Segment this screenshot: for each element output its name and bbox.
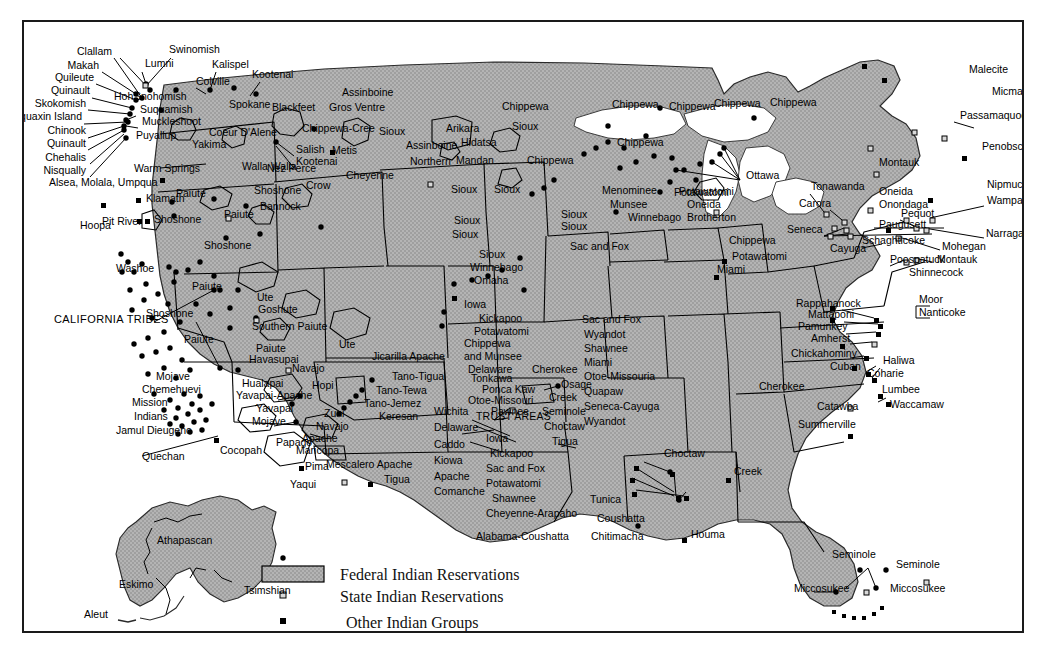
- map-label: Shinnecock: [909, 266, 964, 278]
- florida-keys-dots: [832, 606, 884, 620]
- map-label: Chinook: [47, 124, 86, 136]
- map-label: Pit River: [102, 215, 142, 227]
- map-label: Iowa: [486, 432, 508, 444]
- map-label: Tsimshian: [244, 584, 291, 596]
- map-label: Muckleshoot: [142, 115, 201, 127]
- map-label: Ottawa: [746, 169, 779, 181]
- map-label: Jicarilla Apache: [372, 350, 445, 362]
- map-label: Lumni: [145, 57, 174, 69]
- map-label: Goshute: [258, 303, 298, 315]
- map-label: Seneca: [787, 223, 823, 235]
- map-label: Kickapoo: [479, 312, 522, 324]
- map-label: Summerville: [798, 418, 856, 430]
- map-label: Seminole: [832, 548, 876, 560]
- map-label: Assinboine: [406, 139, 458, 151]
- map-label: Creek: [549, 391, 578, 403]
- map-label: Chippewa: [527, 154, 574, 166]
- map-label: Zuni: [324, 407, 344, 419]
- map-label: Assinboine: [342, 86, 394, 98]
- map-label: Mission: [132, 396, 168, 408]
- map-label: Chippewa: [714, 97, 761, 109]
- us-indian-reservations-map: Federal Indian Reservations State Indian…: [24, 22, 1022, 631]
- map-label: Tonawanda: [811, 180, 865, 192]
- map-label: Wyandot: [584, 415, 625, 427]
- map-label: Tigua: [552, 435, 578, 447]
- map-label: CALIFORNIA TRIBES: [54, 313, 169, 325]
- map-label: Nipmuc: [987, 178, 1022, 190]
- map-label: Snohomish: [134, 90, 187, 102]
- map-label: Sioux: [561, 208, 588, 220]
- map-label: Carora: [799, 197, 831, 209]
- map-label: Yavapai-Apache: [236, 389, 312, 401]
- map-label: Hidatsa: [461, 136, 497, 148]
- map-label: Washoe: [116, 262, 154, 274]
- map-label: Oneida: [879, 185, 913, 197]
- map-label: Catawba: [817, 400, 859, 412]
- map-label: Comanche: [434, 485, 485, 497]
- map-label: Jamul Dieugeno: [116, 424, 192, 436]
- map-label: Pamunkey: [798, 320, 848, 332]
- map-label: Choctaw: [544, 420, 585, 432]
- map-label: Miccosukee: [794, 582, 850, 594]
- map-label: Coharie: [867, 367, 904, 379]
- map-label: Quapaw: [584, 385, 624, 397]
- map-label: Athapascan: [157, 534, 213, 546]
- map-label: Colville: [196, 75, 230, 87]
- map-label: Kiowa: [434, 454, 463, 466]
- map-label: Seminole: [896, 558, 940, 570]
- map-label: Chippewa: [617, 136, 664, 148]
- map-label: Arikara: [446, 122, 479, 134]
- map-label: Waccamaw: [890, 398, 944, 410]
- map-label: Ute: [339, 338, 356, 350]
- map-label: Skokomish: [35, 97, 87, 109]
- map-label: Micmac: [992, 85, 1022, 97]
- map-legend: Federal Indian Reservations State Indian…: [262, 555, 520, 631]
- map-label: Chehalis: [45, 151, 86, 163]
- map-label: Sioux: [379, 125, 406, 137]
- map-label: Iowa: [464, 298, 486, 310]
- map-label: Winnebago: [628, 211, 681, 223]
- map-label: Swinomish: [169, 43, 220, 55]
- alaska-inset: [116, 496, 276, 622]
- map-label: Squaxin Island: [24, 110, 82, 122]
- map-label: Montauk: [879, 156, 920, 168]
- map-label: Menominee: [602, 184, 657, 196]
- map-label: Cheyenne: [346, 169, 394, 181]
- map-label: Cayuga: [830, 242, 866, 254]
- legend-federal-dot: [280, 555, 285, 560]
- map-label: Mojave: [252, 415, 286, 427]
- map-label: Mohegan: [942, 240, 986, 252]
- map-label: Makah: [67, 59, 99, 71]
- map-label: Northern: [410, 155, 451, 167]
- map-label: Quinault: [47, 137, 86, 149]
- map-label: Wyandot: [584, 328, 625, 340]
- map-label: Tano-Tigua: [392, 370, 444, 382]
- map-label: Nanticoke: [919, 306, 966, 318]
- map-label: Coeur D'Alene: [209, 126, 277, 138]
- map-frame: Federal Indian Reservations State Indian…: [22, 20, 1024, 633]
- map-label: Sioux: [454, 214, 481, 226]
- map-label: Narraganset: [986, 227, 1022, 239]
- map-label: Sioux: [561, 220, 588, 232]
- map-label: Sioux: [479, 248, 506, 260]
- map-label: Cherokee: [532, 363, 578, 375]
- map-label: Potawatomi: [474, 325, 529, 337]
- map-label: Chitimacha: [591, 530, 644, 542]
- map-label: Miccosukee: [890, 582, 946, 594]
- map-label: Warm Springs: [134, 162, 200, 174]
- map-label: Chippewa: [770, 96, 817, 108]
- map-label: Moor: [919, 293, 943, 305]
- map-label: Chippewa: [502, 100, 549, 112]
- map-label: Tigua: [384, 473, 410, 485]
- map-label: Suquamish: [140, 103, 193, 115]
- map-label: Kickapoo: [490, 447, 533, 459]
- map-label: Paiute: [192, 280, 222, 292]
- map-label: Shawnee: [584, 342, 628, 354]
- map-label: Alsea, Molala, Umpqua: [49, 176, 158, 188]
- map-label: Yavapai: [256, 402, 293, 414]
- map-label: Sac and Fox: [582, 313, 642, 325]
- map-label: Otoe-Missouria: [584, 370, 655, 382]
- map-label: Tano-Tewa: [376, 384, 427, 396]
- map-label: Kalispel: [212, 58, 249, 70]
- map-label: Chickahominy: [791, 347, 858, 359]
